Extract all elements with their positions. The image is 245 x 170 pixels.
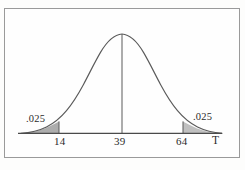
- tick-label-upper-critical: 64: [176, 136, 187, 147]
- statistics-figure: .025 .025 14 39 64 T: [0, 0, 245, 170]
- tick-label-lower-critical: 14: [54, 136, 65, 147]
- left-tail-area-label: .025: [26, 114, 45, 125]
- axis-label-t: T: [212, 135, 219, 147]
- right-tail-shaded-region: [183, 121, 220, 133]
- tick-label-mean: 39: [114, 136, 125, 147]
- right-tail-area-label: .025: [193, 112, 212, 123]
